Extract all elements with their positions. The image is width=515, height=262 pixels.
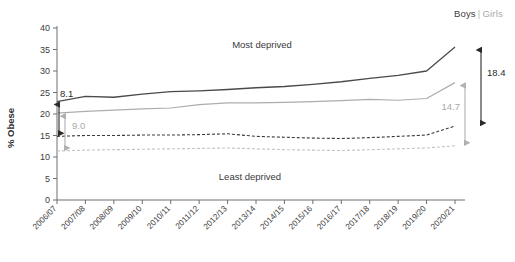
y-tick-label-25: 25 bbox=[40, 88, 50, 98]
y-tick-label-15: 15 bbox=[40, 131, 50, 141]
band-label-least-deprived: Least deprived bbox=[219, 171, 281, 182]
series-line-3 bbox=[57, 146, 455, 151]
gap-label-boys-gap-start: 8.1 bbox=[60, 88, 73, 99]
y-tick-label-40: 40 bbox=[40, 23, 50, 33]
chart-canvas: 0510152025303540 2006/072007/082008/0920… bbox=[0, 0, 515, 262]
y-axis-title: % Obese bbox=[5, 108, 16, 148]
x-tick-label-10: 2016/17 bbox=[315, 204, 343, 232]
gap-label-girls-gap-end: 14.7 bbox=[442, 101, 461, 112]
gap-annotations-group: 8.19.018.414.7 bbox=[59, 50, 506, 148]
x-tick-label-12: 2018/19 bbox=[372, 204, 400, 232]
y-tick-label-10: 10 bbox=[40, 152, 50, 162]
y-axis: 0510152025303540 bbox=[40, 23, 57, 205]
x-tick-label-14: 2020/21 bbox=[429, 204, 457, 232]
gap-label-boys-gap-end: 18.4 bbox=[487, 67, 506, 78]
x-tick-label-2: 2008/09 bbox=[88, 204, 116, 232]
obesity-deprivation-line-chart: Boys|Girls 0510152025303540 2006/072007/… bbox=[0, 0, 515, 262]
data-series-group bbox=[57, 47, 455, 151]
x-tick-label-3: 2009/10 bbox=[116, 204, 144, 232]
x-tick-label-1: 2007/08 bbox=[60, 204, 88, 232]
y-tick-label-0: 0 bbox=[45, 195, 50, 205]
x-tick-label-0: 2006/07 bbox=[31, 204, 59, 232]
x-tick-label-13: 2019/20 bbox=[401, 204, 429, 232]
x-tick-label-8: 2014/15 bbox=[259, 204, 287, 232]
y-tick-label-35: 35 bbox=[40, 45, 50, 55]
y-tick-label-30: 30 bbox=[40, 66, 50, 76]
series-line-2 bbox=[57, 126, 455, 138]
x-tick-label-11: 2017/18 bbox=[344, 204, 372, 232]
x-tick-label-6: 2012/13 bbox=[202, 204, 230, 232]
x-tick-label-9: 2015/16 bbox=[287, 204, 315, 232]
series-line-0 bbox=[57, 47, 455, 102]
y-tick-label-5: 5 bbox=[45, 174, 50, 184]
y-tick-label-20: 20 bbox=[40, 109, 50, 119]
x-axis: 2006/072007/082008/092009/102010/112011/… bbox=[31, 200, 465, 231]
band-label-most-deprived: Most deprived bbox=[232, 39, 292, 50]
x-tick-label-5: 2011/12 bbox=[174, 204, 201, 231]
gap-label-girls-gap-start: 9.0 bbox=[72, 120, 85, 131]
x-tick-label-4: 2010/11 bbox=[145, 204, 172, 231]
x-tick-label-7: 2013/14 bbox=[230, 204, 258, 232]
